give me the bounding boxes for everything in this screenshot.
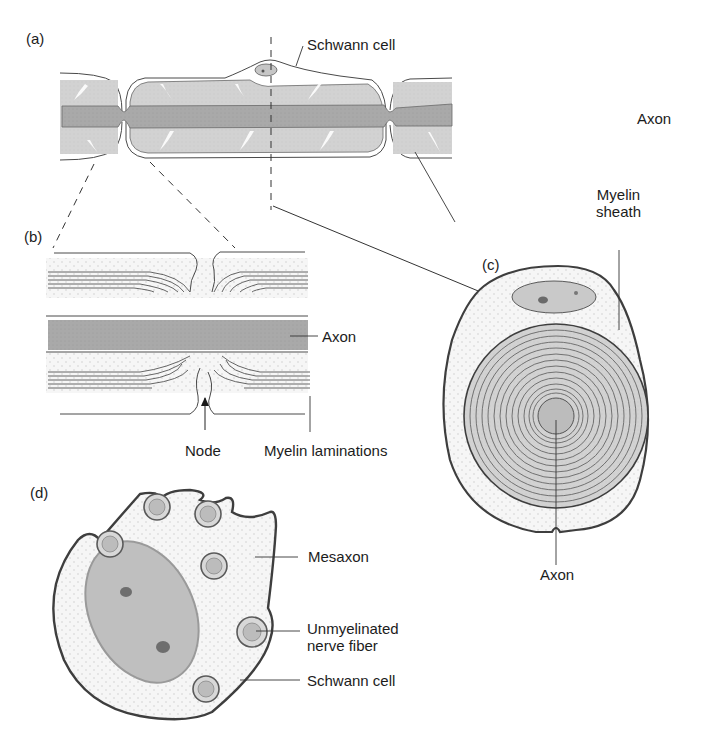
panel-label-a: (a) [26, 30, 44, 47]
label-axon-a: Axon [637, 110, 671, 127]
label-unmyelinated-line2: nerve fiber [307, 637, 399, 654]
panel-b-node-of-ranvier [46, 252, 318, 432]
panel-label-b: (b) [24, 228, 42, 245]
label-node: Node [185, 442, 221, 459]
label-schwann-cell-d: Schwann cell [307, 672, 395, 689]
label-myelin-laminations: Myelin laminations [264, 442, 387, 459]
label-myelin-sheath-line1: Myelin [596, 186, 641, 203]
label-axon-c: Axon [540, 566, 574, 583]
schwann-nucleus-c [512, 281, 596, 313]
label-mesaxon: Mesaxon [308, 548, 369, 565]
panel-c-myelinated-cross-section [443, 250, 648, 565]
panel-label-c: (c) [482, 256, 500, 273]
label-myelin-sheath: Myelin sheath [596, 186, 641, 220]
schwann-nucleus [255, 64, 277, 76]
panel-d-unmyelinated-cross-section [53, 490, 300, 719]
label-unmyelinated-line1: Unmyelinated [307, 620, 399, 637]
label-unmyelinated-fiber: Unmyelinated nerve fiber [307, 620, 399, 654]
label-axon-b: Axon [322, 328, 356, 345]
panel-label-d: (d) [30, 484, 48, 501]
label-schwann-cell-a: Schwann cell [307, 36, 395, 53]
label-myelin-sheath-line2: sheath [596, 203, 641, 220]
